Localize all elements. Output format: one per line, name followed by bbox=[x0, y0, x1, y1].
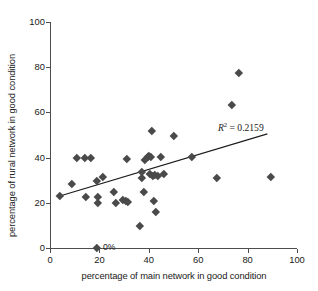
x-tick-mark bbox=[297, 249, 298, 253]
x-tick-label: 40 bbox=[129, 254, 169, 265]
y-tick-label: 40 bbox=[5, 152, 45, 163]
x-tick-mark bbox=[248, 249, 249, 253]
r2-annotation: R2 = 0.2159 bbox=[218, 121, 264, 133]
y-tick-label: 100 bbox=[5, 16, 45, 27]
y-tick-label: 60 bbox=[5, 106, 45, 117]
y-tick-label: 80 bbox=[5, 61, 45, 72]
x-tick-mark bbox=[99, 249, 100, 253]
x-tick-mark bbox=[198, 249, 199, 253]
plot-area: 020406080100 020406080100 R2 = 0.2159 0% bbox=[50, 22, 297, 248]
y-tick-label: 0 bbox=[5, 242, 45, 253]
r2-value: = 0.2159 bbox=[227, 122, 264, 133]
x-tick-label: 20 bbox=[79, 254, 119, 265]
x-axis-line bbox=[50, 248, 297, 249]
x-tick-label: 100 bbox=[277, 254, 317, 265]
zero-percent-annotation: 0% bbox=[103, 242, 115, 252]
x-tick-label: 80 bbox=[228, 254, 268, 265]
x-tick-label: 0 bbox=[30, 254, 70, 265]
x-tick-mark bbox=[149, 249, 150, 253]
y-tick-label: 20 bbox=[5, 197, 45, 208]
x-tick-mark bbox=[50, 249, 51, 253]
x-tick-label: 60 bbox=[178, 254, 218, 265]
chart-figure: percentage of rural network in good cond… bbox=[0, 0, 318, 291]
x-axis-title: percentage of main network in good condi… bbox=[50, 270, 298, 281]
